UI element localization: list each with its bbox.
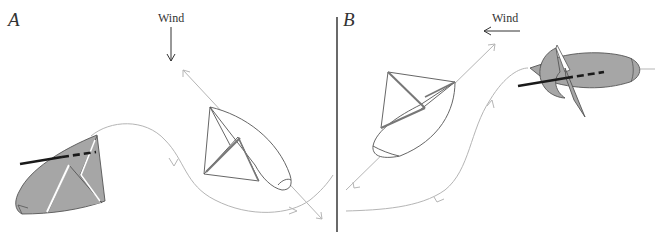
course-path-a [91, 124, 333, 214]
sailing-diagram: A Wind B Wind [0, 0, 668, 238]
wind-arrow-left-icon [484, 27, 520, 35]
wind-arrow-down-icon [167, 27, 175, 61]
diagram-canvas [0, 0, 668, 238]
upright-boat-a [204, 107, 291, 190]
heeled-boat-b [518, 45, 640, 117]
upright-boat-b [373, 72, 455, 157]
heeled-boat-a [16, 135, 105, 214]
